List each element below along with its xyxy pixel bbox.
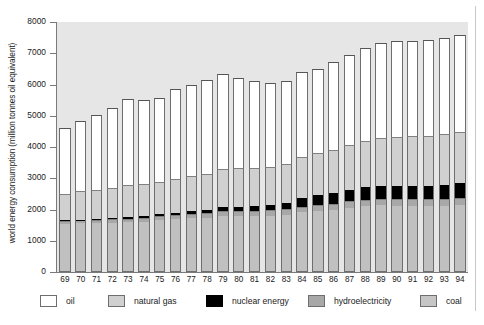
bar-segment-hydroelectricity [328, 204, 339, 210]
bar-segment-coal [201, 218, 212, 272]
bar-segment-natural-gas [233, 168, 244, 206]
stacked-bar [439, 22, 450, 272]
bar-segment-oil [328, 62, 339, 150]
bar-segment-nuclear-energy [249, 206, 260, 211]
bar-segment-coal [249, 216, 260, 272]
chart-legend: oilnatural gasnuclear energyhydroelectri… [20, 290, 464, 316]
bar-segment-hydroelectricity [138, 218, 149, 222]
stacked-bar [423, 22, 434, 272]
bar-segment-natural-gas [170, 179, 181, 213]
y-axis-tick-mark [50, 116, 56, 117]
bar-segment-natural-gas [439, 134, 450, 185]
bar-segment-natural-gas [122, 185, 133, 217]
bar-segment-coal [360, 206, 371, 272]
legend-item-oil[interactable]: oil [40, 290, 75, 312]
y-axis-tick-label: 5000 [0, 111, 46, 120]
bar-segment-nuclear-energy [423, 186, 434, 200]
bar-segment-hydroelectricity [217, 211, 228, 216]
bar-segment-coal [75, 223, 86, 272]
bar-segment-nuclear-energy [107, 218, 118, 219]
stacked-bar [217, 22, 228, 272]
bar-segment-coal [328, 210, 339, 272]
bar-segment-natural-gas [265, 167, 276, 205]
bar-segment-hydroelectricity [360, 200, 371, 206]
bar-segment-oil [407, 41, 418, 136]
legend-item-natural-gas[interactable]: natural gas [108, 290, 177, 312]
bar-segment-coal [59, 224, 70, 272]
stacked-bar [233, 22, 244, 272]
bar-segment-hydroelectricity [107, 219, 118, 222]
legend-swatch-icon [108, 295, 125, 307]
bar-segment-nuclear-energy [439, 185, 450, 199]
bar-segment-hydroelectricity [186, 214, 197, 218]
bar-segment-oil [265, 83, 276, 167]
bar-segment-natural-gas [344, 145, 355, 190]
bar-segment-oil [138, 100, 149, 184]
bar-segment-natural-gas [312, 153, 323, 194]
legend-item-nuclear-energy[interactable]: nuclear energy [206, 290, 289, 312]
bar-segment-coal [122, 222, 133, 272]
y-axis-tick-mark [50, 241, 56, 242]
bar-segment-natural-gas [201, 174, 212, 210]
bar-segment-nuclear-energy [75, 220, 86, 221]
bar-segment-oil [91, 115, 102, 190]
stacked-bar [59, 22, 70, 272]
y-axis-tick-label: 4000 [0, 142, 46, 151]
y-axis-tick-mark [50, 178, 56, 179]
bar-segment-oil [439, 38, 450, 134]
stacked-bar [91, 22, 102, 272]
bar-segment-hydroelectricity [75, 220, 86, 223]
bar-segment-nuclear-energy [328, 193, 339, 204]
bar-segment-oil [122, 99, 133, 185]
bar-segment-nuclear-energy [375, 186, 386, 199]
bar-segment-coal [281, 215, 292, 273]
bar-segment-coal [454, 205, 465, 272]
bar-segment-oil [154, 98, 165, 182]
bar-segment-natural-gas [107, 188, 118, 219]
bar-segment-natural-gas [281, 164, 292, 202]
bar-segment-hydroelectricity [439, 199, 450, 206]
y-axis-line [56, 22, 57, 273]
bar-segment-coal [138, 222, 149, 272]
bar-segment-nuclear-energy [281, 203, 292, 209]
stacked-bar [170, 22, 181, 272]
bar-segment-natural-gas [217, 169, 228, 207]
bar-segment-hydroelectricity [312, 205, 323, 211]
y-axis-tick-label: 2000 [0, 205, 46, 214]
bar-segment-coal [344, 208, 355, 272]
chart-figure: world energy consumption (million tonnes… [0, 0, 484, 325]
bar-segment-natural-gas [391, 137, 402, 186]
bar-segment-coal [186, 218, 197, 272]
bar-segment-nuclear-energy [265, 205, 276, 210]
bar-segment-nuclear-energy [154, 214, 165, 216]
bar-segment-natural-gas [91, 190, 102, 220]
bar-segment-oil [59, 128, 70, 194]
x-axis-tick-label: 94 [450, 275, 470, 284]
bar-segment-nuclear-energy [312, 195, 323, 205]
bar-segment-oil [281, 81, 292, 164]
legend-item-hydroelectricity[interactable]: hydroelectricity [308, 290, 391, 312]
bar-segment-coal [107, 223, 118, 272]
bar-segment-coal [407, 206, 418, 272]
bar-segment-nuclear-energy [391, 186, 402, 199]
bar-segment-hydroelectricity [375, 199, 386, 206]
bar-segment-nuclear-energy [344, 190, 355, 202]
bar-segment-nuclear-energy [138, 216, 149, 218]
bar-segment-nuclear-energy [59, 220, 70, 221]
bar-segment-natural-gas [186, 176, 197, 211]
bar-segment-coal [312, 211, 323, 272]
bar-segment-coal [265, 216, 276, 272]
bar-segment-nuclear-energy [360, 187, 371, 200]
bar-segment-coal [217, 216, 228, 272]
legend-item-coal[interactable]: coal [420, 290, 462, 312]
legend-swatch-icon [420, 295, 437, 307]
bar-segment-nuclear-energy [296, 198, 307, 206]
bar-segment-hydroelectricity [249, 211, 260, 216]
bar-segment-nuclear-energy [170, 213, 181, 216]
bar-segment-hydroelectricity [423, 199, 434, 206]
stacked-bar [375, 22, 386, 272]
bar-segment-coal [91, 223, 102, 272]
bar-segment-hydroelectricity [201, 213, 212, 218]
bar-segment-coal [154, 220, 165, 272]
bar-segment-nuclear-energy [91, 219, 102, 220]
